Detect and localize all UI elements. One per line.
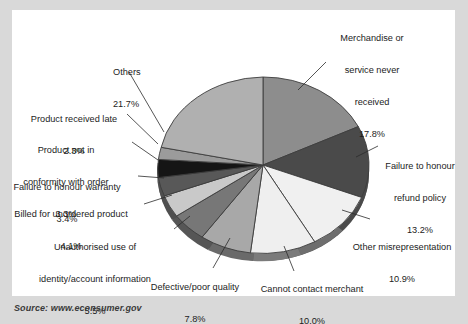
label-merchant-line1: Cannot contact merchant [249,284,375,295]
label-merchandise-line2: service never [317,65,427,76]
cut-off-title [0,0,468,9]
label-unauthorised-line2: identity/account information [25,274,165,285]
label-late-line2: 2.3% [22,146,126,157]
label-merchandise-line4: 17.8% [317,129,427,140]
label-refund-line2: refund policy [372,193,468,204]
label-others-line2: 21.7% [113,99,173,110]
label-merchandise-line3: received [317,97,427,108]
label-merchandise: Merchandise or service never received 17… [317,12,427,160]
label-others-line1: Others [113,67,173,78]
label-refund-line1: Failure to honour [372,161,468,172]
label-conformity-line2: conformity with order [12,177,120,188]
label-received-late: Product received late 2.3% [22,93,126,178]
label-merchandise-line1: Merchandise or [317,33,427,44]
label-misrep-line1: Other misrepresentation [339,242,465,253]
figure-root: Merchandise or service never received 17… [0,0,468,324]
label-merchant-line2: 10.0% [249,316,375,324]
leader-conformity [132,142,158,160]
label-conformity-line3: 3.3% [12,209,120,220]
label-late-line1: Product received late [22,114,126,125]
label-others: Others 21.7% [113,46,173,131]
label-cannot-contact-merchant: Cannot contact merchant 10.0% [249,263,375,324]
source-note: Source: www.econsumer.gov [14,303,142,313]
